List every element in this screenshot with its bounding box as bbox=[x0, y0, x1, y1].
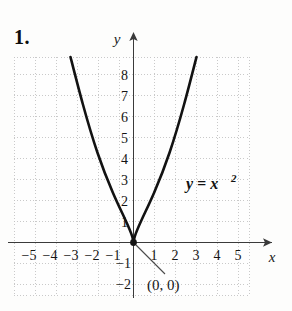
svg-text:y = x: y = x bbox=[184, 175, 218, 193]
svg-text:4: 4 bbox=[121, 152, 128, 167]
x-axis-label: x bbox=[268, 249, 276, 265]
svg-text:−4: −4 bbox=[43, 248, 58, 263]
svg-text:2: 2 bbox=[230, 172, 237, 184]
svg-text:−1: −1 bbox=[106, 248, 121, 263]
svg-text:5: 5 bbox=[235, 248, 242, 263]
svg-text:−2: −2 bbox=[85, 248, 100, 263]
svg-text:7: 7 bbox=[121, 89, 128, 104]
y-axis-label: y bbox=[112, 31, 121, 47]
svg-text:6: 6 bbox=[121, 110, 128, 125]
origin-annotation-label: (0, 0) bbox=[147, 277, 180, 294]
svg-text:4: 4 bbox=[214, 248, 221, 263]
svg-text:−5: −5 bbox=[22, 248, 37, 263]
svg-text:−3: −3 bbox=[64, 248, 79, 263]
figure-page: 1. bbox=[0, 0, 292, 311]
svg-text:2: 2 bbox=[172, 248, 179, 263]
svg-text:5: 5 bbox=[121, 131, 128, 146]
vertex-point bbox=[130, 239, 137, 246]
svg-text:8: 8 bbox=[121, 68, 128, 83]
svg-text:2: 2 bbox=[121, 194, 128, 209]
svg-text:3: 3 bbox=[121, 173, 128, 188]
svg-text:3: 3 bbox=[193, 248, 200, 263]
parabola-graph-figure: y x 8 7 6 5 4 3 2 1 −1 −2 −5 −4 −3 −2 bbox=[0, 0, 292, 311]
svg-text:−2: −2 bbox=[116, 277, 131, 292]
